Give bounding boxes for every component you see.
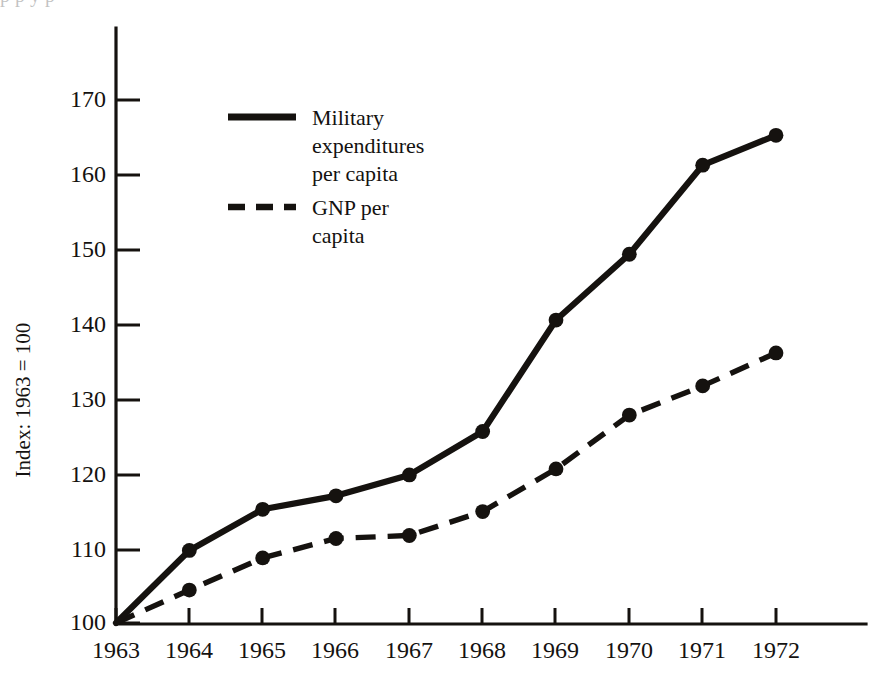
data-point — [182, 583, 197, 598]
chart-legend: Military expenditures per capita GNP per… — [228, 105, 424, 248]
y-tick-label-170: 170 — [70, 86, 106, 112]
data-point — [769, 128, 784, 143]
data-point — [182, 543, 197, 558]
y-axis-tick-labels: 170 160 150 140 130 120 110 100 — [70, 86, 106, 635]
data-point — [402, 467, 417, 482]
data-point — [622, 408, 637, 423]
y-tick-label-160: 160 — [70, 161, 106, 187]
military-markers — [182, 128, 783, 558]
x-tick-label-1970: 1970 — [605, 637, 653, 663]
series-military-expenditures-per-capita — [116, 128, 783, 623]
chart-figure: p p y p — [0, 0, 874, 681]
legend-label-gnp-line1: GNP per — [312, 195, 389, 220]
y-axis-ticks — [116, 100, 140, 623]
x-axis-ticks — [116, 608, 776, 624]
data-point — [695, 158, 710, 173]
y-tick-label-130: 130 — [70, 386, 106, 412]
data-point — [255, 502, 270, 517]
legend-label-gnp-line2: capita — [312, 223, 365, 248]
series-gnp-per-capita — [116, 346, 783, 623]
military-line — [116, 135, 776, 623]
y-tick-label-140: 140 — [70, 311, 106, 337]
legend-label-military-line2: expenditures — [312, 133, 424, 158]
data-point — [402, 528, 417, 543]
x-tick-label-1965: 1965 — [238, 637, 286, 663]
data-point — [549, 313, 564, 328]
x-tick-label-1971: 1971 — [678, 637, 726, 663]
data-point — [255, 551, 270, 566]
data-point — [475, 504, 490, 519]
data-point — [475, 424, 490, 439]
y-axis-title-group: Index: 1963 = 100 — [11, 323, 35, 478]
x-tick-label-1967: 1967 — [385, 637, 433, 663]
y-tick-label-120: 120 — [70, 461, 106, 487]
data-point — [769, 346, 784, 361]
x-tick-label-1968: 1968 — [458, 637, 506, 663]
x-tick-label-1969: 1969 — [531, 637, 579, 663]
y-tick-label-150: 150 — [70, 236, 106, 262]
top-fragment-text: p p y p — [0, 0, 55, 7]
data-point — [329, 531, 344, 546]
y-axis-title: Index: 1963 = 100 — [11, 323, 35, 478]
data-point — [329, 488, 344, 503]
x-tick-label-1966: 1966 — [311, 637, 359, 663]
data-point — [549, 462, 564, 477]
gnp-line — [116, 353, 776, 623]
data-point — [622, 247, 637, 262]
gnp-markers — [182, 346, 783, 598]
line-chart-svg: 170 160 150 140 130 120 110 100 Index: 1… — [0, 0, 874, 681]
x-tick-label-1963: 1963 — [92, 637, 140, 663]
data-point — [695, 378, 710, 393]
y-tick-label-100: 100 — [70, 609, 106, 635]
x-tick-label-1972: 1972 — [752, 637, 800, 663]
y-tick-label-110: 110 — [71, 536, 106, 562]
legend-label-military-line3: per capita — [312, 161, 398, 186]
x-axis-tick-labels: 1963 1964 1965 1966 1967 1968 1969 1970 … — [92, 637, 800, 663]
x-tick-label-1964: 1964 — [165, 637, 213, 663]
legend-label-military-line1: Military — [312, 105, 384, 130]
page-top-text-fragment: p p y p — [0, 0, 874, 10]
